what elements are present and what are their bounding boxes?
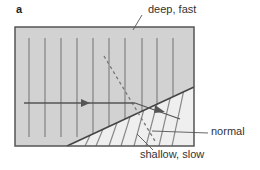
- wave-refraction-diagram: a: [0, 0, 260, 170]
- normal-label: normal: [211, 125, 245, 137]
- deep-fast-label: deep, fast: [148, 3, 196, 15]
- shallow-slow-label: shallow, slow: [140, 148, 204, 160]
- diagram-canvas: [0, 0, 260, 170]
